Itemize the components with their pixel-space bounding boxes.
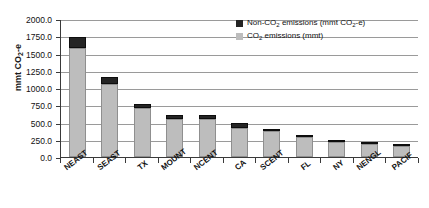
x-axis-tick — [418, 158, 419, 163]
stacked-bar[interactable] — [69, 37, 86, 157]
y-axis-tick-label: 0.0 — [6, 153, 52, 163]
legend-swatch-non-co2-icon — [236, 20, 243, 27]
bar-slot — [386, 20, 418, 157]
y-axis-tick-label: 1750.0 — [6, 32, 52, 42]
bar-segment-co2[interactable] — [296, 137, 313, 157]
bar-slot — [158, 20, 190, 157]
x-axis-labels: NEASTSEASTTXMOUNTNCENTCASCENTFLNYNENGLPA… — [60, 163, 418, 208]
x-axis-label-slot: NY — [320, 163, 353, 208]
x-axis-label-slot: SEAST — [93, 163, 126, 208]
legend-swatch-co2-icon — [236, 33, 243, 40]
x-axis-label-slot: MOUNT — [158, 163, 191, 208]
x-axis-label-slot: TX — [125, 163, 158, 208]
x-axis-label-slot: PACIF — [385, 163, 418, 208]
legend-label-co2: CO2 emissions (mmt) — [247, 31, 323, 41]
stacked-bar[interactable] — [296, 135, 313, 157]
legend: Non-CO2 emissions (mmt CO2-e) CO2 emissi… — [236, 18, 365, 44]
chart-figure: mmt CO2-e 0.0250.0500.0750.01000.01250.0… — [0, 0, 429, 208]
x-axis-label-slot: CA — [223, 163, 256, 208]
y-axis-tick-label: 750.0 — [6, 101, 52, 111]
y-axis-tick-label: 500.0 — [6, 119, 52, 129]
bar-slot — [61, 20, 93, 157]
bar-slot — [126, 20, 158, 157]
x-axis-label-slot: FL — [288, 163, 321, 208]
y-axis-tick-label: 2000.0 — [6, 15, 52, 25]
legend-item-co2: CO2 emissions (mmt) — [236, 31, 365, 41]
y-axis-tick-label: 1000.0 — [6, 84, 52, 94]
bar-slot — [93, 20, 125, 157]
y-axis-tick-label: 250.0 — [6, 136, 52, 146]
y-axis-ticks: 0.0250.0500.0750.01000.01250.01500.01750… — [0, 20, 60, 158]
stacked-bar[interactable] — [134, 104, 151, 157]
y-axis-tick-label: 1250.0 — [6, 67, 52, 77]
stacked-bar[interactable] — [328, 140, 345, 157]
bar-segment-co2[interactable] — [101, 84, 118, 157]
stacked-bar[interactable] — [101, 77, 118, 157]
bar-segment-co2[interactable] — [69, 48, 86, 157]
bar-segment-co2[interactable] — [231, 128, 248, 157]
x-axis-label-slot: NENGL — [353, 163, 386, 208]
bar-segment-co2[interactable] — [328, 142, 345, 157]
stacked-bar[interactable] — [231, 123, 248, 157]
legend-item-non-co2: Non-CO2 emissions (mmt CO2-e) — [236, 18, 365, 28]
x-axis-label-slot: NCENT — [190, 163, 223, 208]
bar-segment-non-co2[interactable] — [69, 37, 86, 48]
legend-label-non-co2: Non-CO2 emissions (mmt CO2-e) — [247, 18, 365, 28]
x-axis-label-slot: SCENT — [255, 163, 288, 208]
x-axis-label-slot: NEAST — [60, 163, 93, 208]
bar-segment-co2[interactable] — [134, 108, 151, 157]
y-axis-tick-label: 1500.0 — [6, 50, 52, 60]
bar-slot — [191, 20, 223, 157]
